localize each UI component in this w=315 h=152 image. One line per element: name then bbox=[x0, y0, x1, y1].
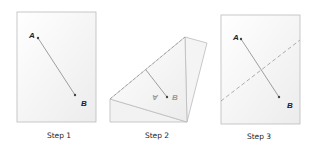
step-3-panel: A B Step 3 bbox=[221, 15, 300, 141]
step-3-caption: Step 3 bbox=[247, 132, 271, 141]
step-1-caption: Step 1 bbox=[47, 131, 71, 140]
point-a bbox=[37, 37, 39, 39]
label-b: B bbox=[172, 93, 178, 102]
label-a-mirrored: A bbox=[152, 93, 159, 102]
point-b bbox=[278, 96, 280, 98]
label-b: B bbox=[81, 99, 87, 108]
step-2-panel: A B Step 2 bbox=[110, 37, 207, 140]
folding-diagram: A B Step 1 A B Step 2 A B Step 3 bbox=[0, 0, 315, 152]
point-a bbox=[240, 38, 242, 40]
paper-right bbox=[185, 37, 207, 122]
label-a: A bbox=[232, 33, 239, 42]
point-b bbox=[74, 94, 76, 96]
label-a: A bbox=[28, 31, 35, 40]
point-b bbox=[166, 96, 168, 98]
step-1-panel: A B Step 1 bbox=[17, 12, 96, 140]
step-2-caption: Step 2 bbox=[145, 131, 169, 140]
label-b: B bbox=[287, 101, 293, 110]
